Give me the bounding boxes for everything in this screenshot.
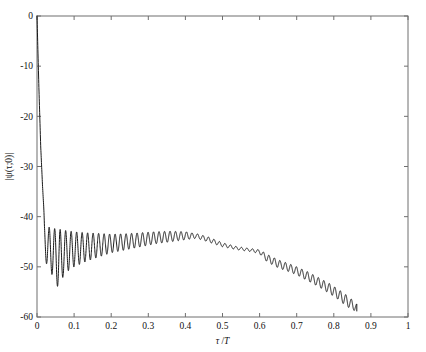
x-tick-label: 0.9	[365, 321, 377, 331]
x-tick-label: 0.1	[68, 321, 80, 331]
y-tick-label: -50	[20, 262, 33, 272]
chart-background	[0, 0, 426, 352]
x-tick-label: 0.3	[142, 321, 154, 331]
y-tick-label: 0	[28, 11, 33, 21]
x-tick-label: 0.6	[254, 321, 266, 331]
y-tick-label: -20	[20, 112, 33, 122]
x-axis-title: τ /T	[216, 336, 230, 346]
line-chart: 00.10.20.30.40.50.60.70.80.91 0-10-20-30…	[0, 0, 426, 352]
x-tick-label: 0	[35, 321, 40, 331]
x-tick-label: 0.4	[179, 321, 191, 331]
figure-canvas: 00.10.20.30.40.50.60.70.80.91 0-10-20-30…	[0, 0, 426, 352]
y-axis-title: |ψ(τ;0)|	[4, 153, 15, 180]
y-axis-label: |ψ(τ;0)|	[4, 153, 15, 180]
x-axis-label: τ /T	[216, 336, 230, 346]
x-tick-label: 0.8	[328, 321, 340, 331]
x-tick-label: 1	[406, 321, 411, 331]
y-tick-label: -10	[20, 61, 33, 71]
x-tick-label: 0.5	[217, 321, 229, 331]
y-tick-label: -30	[20, 162, 33, 172]
y-tick-label: -40	[20, 212, 33, 222]
x-tick-label: 0.2	[105, 321, 117, 331]
y-tick-label: -60	[20, 312, 33, 322]
x-tick-label: 0.7	[291, 321, 303, 331]
